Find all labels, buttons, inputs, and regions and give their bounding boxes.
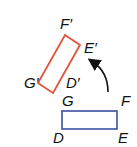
rotation-diagram: F′ E′ G′ D′ G F D E: [0, 0, 137, 147]
label-f: F: [121, 92, 131, 109]
label-g-prime: G′: [24, 74, 40, 91]
rotation-arrow-icon: [93, 62, 108, 92]
label-d-prime: D′: [66, 74, 81, 91]
label-f-prime: F′: [60, 15, 73, 32]
preimage-rectangle: [62, 111, 117, 129]
label-e-prime: E′: [84, 39, 98, 56]
label-e: E: [118, 129, 129, 146]
label-d: D: [53, 129, 64, 146]
label-g: G: [62, 92, 74, 109]
